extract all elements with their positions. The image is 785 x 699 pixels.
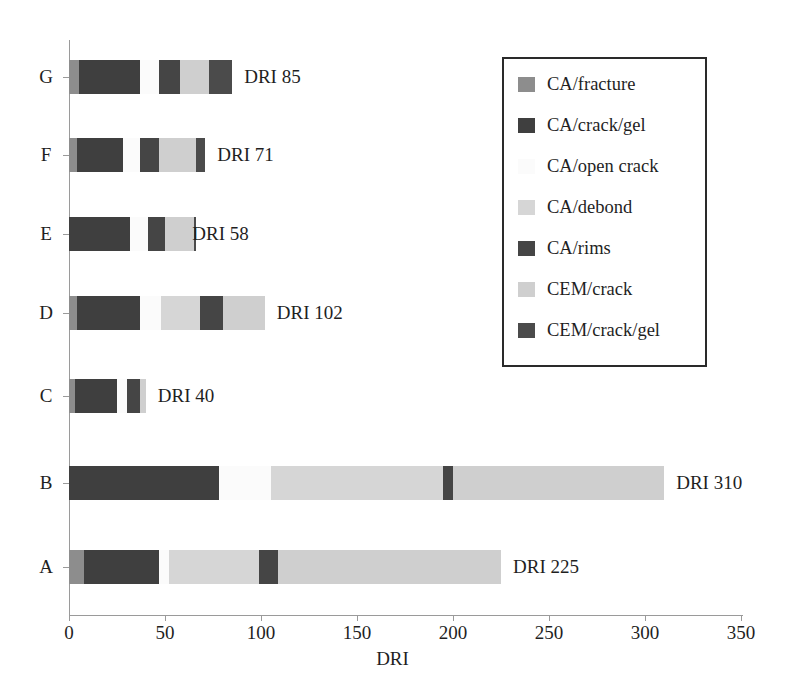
x-tick-label: 100	[247, 622, 276, 644]
bar-segment	[69, 138, 77, 172]
legend-swatch-icon	[518, 323, 535, 338]
x-tick	[549, 615, 550, 621]
bar-segment	[180, 60, 209, 94]
bar-b: DRI 310	[0, 466, 785, 500]
legend-item: CA/rims	[518, 235, 611, 261]
bar-segment	[84, 550, 159, 584]
bar-segment	[69, 550, 84, 584]
bar-value-label: DRI 102	[277, 302, 343, 324]
bar-segment	[278, 550, 501, 584]
bar-segment	[123, 138, 140, 172]
legend-label: CEM/crack	[547, 279, 632, 300]
bar-segment	[169, 550, 259, 584]
legend-label: CA/rims	[547, 238, 611, 259]
bar-segment	[165, 217, 194, 251]
legend-item: CEM/crack	[518, 276, 632, 302]
legend-item: CEM/crack/gel	[518, 317, 660, 343]
x-tick	[357, 615, 358, 621]
bar-segment	[209, 60, 232, 94]
bar-value-label: DRI 40	[158, 385, 214, 407]
legend-label: CA/fracture	[547, 74, 635, 95]
bar-segment	[196, 138, 206, 172]
bar-segment	[77, 138, 123, 172]
x-tick	[165, 615, 166, 621]
bar-segment	[159, 138, 195, 172]
bar-segment	[259, 550, 278, 584]
legend-item: CA/crack/gel	[518, 112, 646, 138]
legend-label: CA/crack/gel	[547, 115, 646, 136]
bar-segment	[161, 296, 199, 330]
legend: CA/fractureCA/crack/gelCA/open crackCA/d…	[502, 57, 707, 367]
legend-item: CA/debond	[518, 194, 632, 220]
x-tick-label: 0	[64, 622, 74, 644]
bar-value-label: DRI 310	[676, 472, 742, 494]
x-tick	[453, 615, 454, 621]
bar-segment	[159, 550, 169, 584]
bar-segment	[117, 379, 127, 413]
legend-swatch-icon	[518, 200, 535, 215]
bar-segment	[140, 379, 146, 413]
legend-swatch-icon	[518, 282, 535, 297]
x-axis-title: DRI	[0, 648, 785, 670]
legend-swatch-icon	[518, 77, 535, 92]
legend-swatch-icon	[518, 118, 535, 133]
x-tick-label: 300	[631, 622, 660, 644]
x-tick-label: 150	[343, 622, 372, 644]
bar-segment	[69, 296, 77, 330]
bar-segment	[453, 466, 664, 500]
bar-segment	[130, 217, 147, 251]
bar-segment	[223, 296, 265, 330]
legend-swatch-icon	[518, 159, 535, 174]
bar-segment	[443, 466, 453, 500]
bar-value-label: DRI 71	[217, 144, 273, 166]
legend-label: CA/debond	[547, 197, 632, 218]
legend-swatch-icon	[518, 241, 535, 256]
x-tick-label: 350	[727, 622, 756, 644]
bar-segment	[69, 466, 219, 500]
bar-segment	[77, 296, 140, 330]
bar-value-label: DRI 225	[513, 556, 579, 578]
x-tick-label: 250	[535, 622, 564, 644]
bar-segment	[69, 60, 79, 94]
bar-value-label: DRI 58	[192, 223, 248, 245]
bar-segment	[159, 60, 180, 94]
bar-segment	[140, 60, 159, 94]
legend-label: CEM/crack/gel	[547, 320, 660, 341]
bar-segment	[200, 296, 223, 330]
bar-value-label: DRI 85	[244, 66, 300, 88]
x-tick	[261, 615, 262, 621]
bar-segment	[148, 217, 165, 251]
bar-a: DRI 225	[0, 550, 785, 584]
bar-c: DRI 40	[0, 379, 785, 413]
x-tick	[645, 615, 646, 621]
x-tick-label: 200	[439, 622, 468, 644]
bar-segment	[219, 466, 271, 500]
bar-segment	[79, 60, 140, 94]
legend-item: CA/open crack	[518, 153, 658, 179]
bar-segment	[140, 138, 159, 172]
legend-label: CA/open crack	[547, 156, 658, 177]
x-axis-line	[69, 615, 743, 616]
bar-segment	[75, 379, 117, 413]
dri-stacked-bar-chart: 050100150200250300350 GFEDCBA DRI DRI 85…	[0, 0, 785, 699]
bar-segment	[69, 217, 130, 251]
x-tick-label: 50	[156, 622, 175, 644]
x-tick	[741, 615, 742, 621]
bar-segment	[271, 466, 444, 500]
bar-segment	[127, 379, 140, 413]
x-tick	[69, 615, 70, 621]
bar-segment	[140, 296, 161, 330]
legend-item: CA/fracture	[518, 71, 635, 97]
